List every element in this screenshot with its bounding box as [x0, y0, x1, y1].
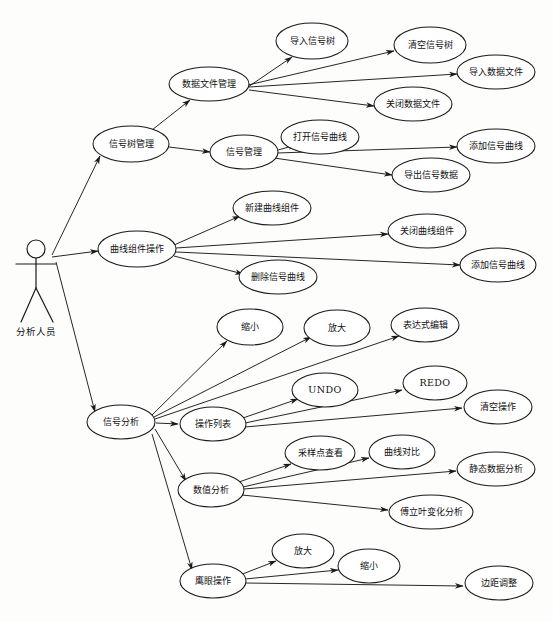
association-line — [169, 147, 210, 152]
actor-label: 分析人员 — [16, 326, 56, 337]
use-case-node[interactable]: REDO — [403, 366, 467, 400]
use-case-label: 缩小 — [360, 560, 378, 571]
association-line — [174, 216, 240, 245]
association-line — [154, 337, 311, 417]
use-case-label: 导入信号树 — [290, 35, 335, 46]
use-case-label: UNDO — [308, 384, 341, 395]
association-line — [52, 156, 100, 255]
use-case-label: 添加信号曲线 — [469, 140, 523, 151]
association-line — [240, 399, 298, 419]
use-case-node[interactable]: 关闭曲线组件 — [388, 214, 466, 248]
use-case-label: 清空操作 — [480, 401, 516, 412]
association-line — [176, 234, 388, 248]
use-case-label: 缩小 — [241, 321, 259, 332]
association-line — [152, 434, 192, 570]
use-case-label: 清空信号树 — [408, 39, 453, 50]
use-case-label: 关闭数据文件 — [386, 98, 440, 109]
actor-leg-left — [21, 288, 36, 322]
use-case-diagram-svg: 分析人员 信号树管理数据文件管理导入信号树清空信号树导入数据文件关闭数据文件信号… — [0, 0, 553, 622]
use-case-diagram-canvas: 分析人员 信号树管理数据文件管理导入信号树清空信号树导入数据文件关闭数据文件信号… — [0, 0, 553, 622]
use-case-label: 添加信号曲线 — [471, 259, 525, 270]
use-case-label: 打开信号曲线 — [293, 131, 347, 142]
association-line — [152, 341, 227, 415]
association-line — [156, 423, 178, 424]
use-case-nodes: 信号树管理数据文件管理导入信号树清空信号树导入数据文件关闭数据文件信号管理打开信… — [87, 23, 536, 600]
use-case-label: 操作列表 — [195, 418, 231, 429]
association-line — [249, 90, 374, 106]
use-case-node[interactable]: 采样点查看 — [285, 436, 355, 470]
association-line — [245, 408, 462, 427]
use-case-label: 曲线组件操作 — [110, 243, 164, 254]
use-case-node[interactable]: 数值分析 — [178, 473, 244, 507]
use-case-node[interactable]: 鹰眼操作 — [180, 564, 246, 598]
use-case-label: 放大 — [294, 545, 312, 556]
use-case-label: 导出信号数据 — [404, 169, 458, 180]
association-line — [236, 464, 291, 483]
use-case-node[interactable]: 删除信号曲线 — [239, 260, 317, 294]
use-case-node[interactable]: 清空操作 — [464, 390, 532, 424]
use-case-node[interactable]: 边距调整 — [465, 566, 533, 600]
use-case-node[interactable]: 放大 — [304, 310, 370, 346]
use-case-label: 关闭曲线组件 — [400, 225, 454, 236]
use-case-node[interactable]: 缩小 — [338, 549, 400, 583]
use-case-label: 静态数据分析 — [469, 463, 523, 474]
use-case-node[interactable]: UNDO — [292, 373, 358, 407]
use-case-label: 傅立叶变化分析 — [400, 506, 463, 517]
association-line — [245, 583, 463, 586]
actor-head-icon — [27, 240, 45, 258]
use-case-node[interactable]: 表达式编辑 — [391, 308, 459, 342]
use-case-label: 采样点查看 — [298, 447, 343, 458]
use-case-label: 删除信号曲线 — [251, 271, 305, 282]
use-case-label: 数值分析 — [193, 484, 229, 495]
use-case-node[interactable]: 添加信号曲线 — [457, 129, 535, 163]
use-case-label: REDO — [419, 377, 450, 388]
use-case-node[interactable]: 静态数据分析 — [457, 452, 535, 486]
use-case-node[interactable]: 导出信号数据 — [392, 158, 470, 192]
use-case-node[interactable]: 新建曲线组件 — [233, 191, 311, 225]
association-line — [249, 74, 457, 87]
use-case-node[interactable]: 放大 — [272, 534, 334, 568]
use-case-node[interactable]: 缩小 — [217, 309, 283, 345]
association-line — [274, 158, 392, 175]
association-line — [152, 100, 190, 130]
use-case-node[interactable]: 清空信号树 — [394, 27, 466, 63]
association-line — [242, 495, 388, 510]
use-case-label: 曲线对比 — [384, 446, 420, 457]
association-line — [52, 251, 98, 257]
use-case-node[interactable]: 添加信号曲线 — [460, 248, 536, 282]
use-case-label: 边距调整 — [481, 577, 517, 588]
use-case-label: 信号分析 — [103, 416, 139, 427]
use-case-label: 放大 — [328, 322, 346, 333]
use-case-node[interactable]: 打开信号曲线 — [281, 120, 359, 154]
association-line — [56, 262, 95, 412]
association-line — [174, 256, 243, 274]
use-case-label: 数据文件管理 — [182, 78, 236, 89]
association-line — [176, 252, 460, 265]
use-case-node[interactable]: 曲线对比 — [369, 435, 435, 469]
association-line — [240, 561, 276, 575]
use-case-node[interactable]: 数据文件管理 — [169, 67, 249, 101]
use-case-node[interactable]: 导入信号树 — [276, 23, 348, 59]
use-case-node[interactable]: 信号树管理 — [93, 126, 169, 162]
use-case-node[interactable]: 傅立叶变化分析 — [389, 495, 473, 529]
association-line — [248, 57, 292, 87]
use-case-node[interactable]: 导入数据文件 — [457, 55, 535, 89]
use-case-node[interactable]: 曲线组件操作 — [98, 231, 176, 267]
use-case-node[interactable]: 操作列表 — [180, 407, 246, 441]
use-case-node[interactable]: 信号分析 — [87, 405, 155, 439]
use-case-label: 新建曲线组件 — [245, 202, 299, 213]
use-case-label: 信号树管理 — [109, 138, 154, 149]
use-case-label: 表达式编辑 — [403, 319, 448, 330]
use-case-label: 信号管理 — [226, 146, 262, 157]
association-line — [155, 429, 186, 481]
association-line — [244, 471, 456, 489]
association-line — [245, 570, 338, 579]
actor-analyst[interactable]: 分析人员 — [16, 240, 56, 337]
use-case-node[interactable]: 关闭数据文件 — [374, 87, 452, 121]
use-case-label: 鹰眼操作 — [195, 575, 231, 586]
use-case-label: 导入数据文件 — [469, 66, 523, 77]
use-case-node[interactable]: 信号管理 — [210, 135, 278, 169]
actor-leg-right — [36, 288, 53, 322]
